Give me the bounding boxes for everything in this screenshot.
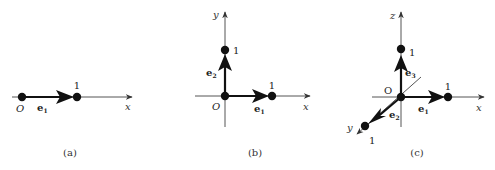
e1-label: e1 (37, 102, 48, 114)
caption-c: (c) (410, 147, 424, 158)
y-axis-label: y (212, 9, 219, 20)
z-axis-label: z (389, 10, 396, 21)
e3-label: e3 (405, 67, 416, 79)
origin-label: O (212, 101, 220, 112)
e1-label: e1 (418, 103, 429, 115)
unit-label-x: 1 (445, 81, 451, 92)
unit-label-x: 1 (269, 80, 275, 91)
x-axis-label: x (476, 102, 482, 113)
panel-c: 1 1 1 O e1 e2 e3 x y z (c) (346, 10, 484, 158)
e2-label: e2 (206, 67, 217, 79)
caption-b: (b) (248, 147, 262, 158)
caption-a: (a) (63, 147, 77, 158)
unit-dot-y (221, 46, 229, 54)
origin-dot (397, 93, 405, 101)
unit-label-y: 1 (233, 45, 239, 56)
unit-label-z: 1 (409, 47, 415, 58)
unit-dot-y (361, 122, 369, 130)
panel-a: 1 O e1 x (a) (12, 80, 132, 158)
origin-dot (18, 93, 26, 101)
unit-dot-x (444, 93, 452, 101)
y-axis-label: y (346, 122, 353, 133)
e1-label: e1 (254, 103, 265, 115)
panel-b: 1 1 O e1 e2 x y (b) (195, 9, 310, 158)
unit-dot-x (73, 93, 81, 101)
unit-label-x: 1 (74, 80, 80, 91)
unit-label-y: 1 (369, 135, 375, 146)
e2-label: e2 (389, 109, 400, 121)
basis-vectors-figure: 1 O e1 x (a) 1 1 O e1 e2 x y (b) (0, 0, 495, 170)
origin-dot (221, 92, 229, 100)
origin-label: O (384, 85, 392, 96)
x-axis-label: x (303, 101, 309, 112)
unit-dot-z (397, 45, 405, 53)
x-axis-label: x (125, 101, 131, 112)
unit-dot-x (268, 92, 276, 100)
origin-label: O (16, 103, 24, 114)
